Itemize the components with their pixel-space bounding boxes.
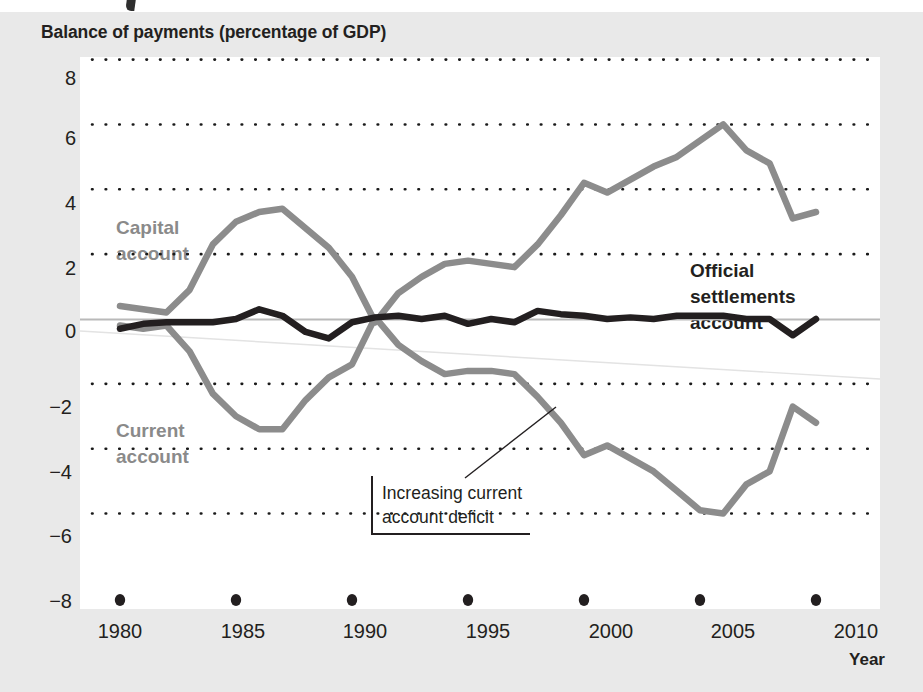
x-tick-dot-2005 xyxy=(695,594,705,606)
series-line-current-account xyxy=(120,317,816,513)
x-tick-dot-1985 xyxy=(231,594,241,606)
annotation-leader-line xyxy=(465,407,556,478)
chart-figure: Balance of payments (percentage of GDP) … xyxy=(0,0,923,692)
x-tick-dot-2000 xyxy=(579,594,589,606)
series-line-capital-account xyxy=(120,124,816,322)
x-tick-dot-1980 xyxy=(115,594,125,606)
gridlines-group xyxy=(92,60,872,514)
chart-svg-layer xyxy=(0,0,923,692)
x-axis-tick-dots xyxy=(115,594,821,606)
x-tick-dot-1995 xyxy=(463,594,473,606)
x-tick-dot-1990 xyxy=(347,594,357,606)
series-line-official-settlements-account xyxy=(120,309,816,338)
x-tick-dot-2010 xyxy=(811,594,821,606)
